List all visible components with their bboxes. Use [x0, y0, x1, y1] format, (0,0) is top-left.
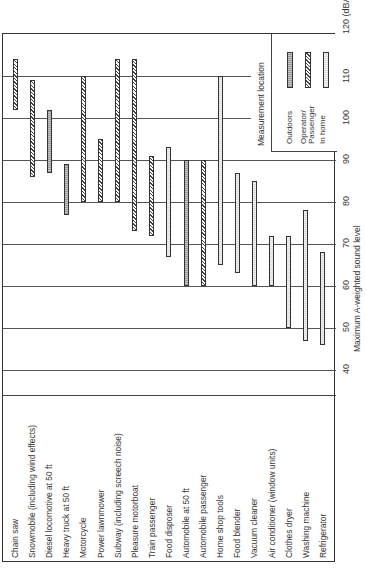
gridline-50 — [3, 328, 336, 329]
axis-unit-label: 120 (dBA) — [341, 0, 351, 34]
legend-label: Passenger — [307, 106, 316, 144]
category-label: Food blender — [232, 509, 242, 558]
bar-food-blender — [235, 173, 240, 274]
bar-automobile-passenger — [201, 160, 206, 286]
category-label: Automobile passenger — [198, 475, 208, 558]
category-label: Food disposer — [164, 505, 174, 558]
tick-label-90: 90 — [341, 154, 351, 164]
bar-air-conditioner-window-units — [269, 236, 274, 286]
bar-heavy-truck-at-50-ft — [64, 164, 69, 214]
category-label: Clothes dryer — [284, 508, 294, 558]
bar-washing-machine — [303, 210, 308, 340]
bar-automobile-at-50-ft — [184, 160, 189, 286]
legend-title: Measurement location — [256, 62, 266, 146]
category-label: Pleasure motorboat — [130, 485, 140, 558]
category-label: Chain saw — [10, 519, 20, 558]
legend-swatch-home — [323, 52, 329, 88]
category-label: Power lawnmower — [96, 490, 106, 558]
tick-label-100: 100 — [341, 109, 351, 124]
tick-label-50: 50 — [341, 322, 351, 332]
category-label: Train passenger — [147, 498, 157, 558]
gridline-110 — [3, 76, 251, 77]
tick-label-70: 70 — [341, 238, 351, 248]
legend-label: Outdoors — [285, 111, 294, 144]
legend-swatch-outdoors — [287, 52, 293, 88]
gridline-40 — [3, 370, 336, 371]
category-label: Refrigerator — [318, 514, 328, 558]
legend-label: In home — [318, 115, 327, 144]
category-label: Diesel locomotive at 50 ft — [44, 464, 54, 558]
bar-refrigerator — [320, 252, 325, 344]
category-label: Vacuum cleaner — [249, 498, 259, 558]
tick-label-40: 40 — [341, 364, 351, 374]
legend-swatch-operator — [305, 52, 311, 88]
category-label: Automobile at 50 ft — [181, 488, 191, 558]
axis-title: Maximum A-weighted sound level — [352, 225, 362, 352]
bar-diesel-locomotive-at-50-ft — [47, 110, 52, 173]
plot-frame: Chain sawSnowmobile (including wind effe… — [2, 33, 335, 562]
bar-motorcycle — [81, 76, 86, 202]
category-label: Motorcycle — [78, 518, 88, 559]
category-label: Home shop tools — [215, 495, 225, 558]
category-label: Heavy truck at 50 ft — [61, 486, 71, 558]
bar-pleasure-motorboat — [132, 59, 137, 231]
bar-power-lawnmower — [98, 139, 103, 202]
tick-label-80: 80 — [341, 196, 351, 206]
bar-train-passenger — [149, 156, 154, 236]
bar-vacuum-cleaner — [252, 181, 257, 286]
gridline-100 — [3, 118, 251, 119]
legend: Measurement location OutdoorsOperator/Pa… — [271, 34, 337, 152]
category-label: Washing machine — [301, 492, 311, 558]
bar-chain-saw — [13, 59, 18, 109]
label-divider — [3, 395, 336, 396]
tick-label-60: 60 — [341, 280, 351, 290]
bar-subway-including-screech-noise — [115, 59, 120, 202]
category-label: Air conditioner (window units) — [267, 449, 277, 558]
category-label: Subway (including screech noise) — [113, 433, 123, 558]
tick-label-110: 110 — [341, 68, 351, 82]
category-label: Snowmobile (including wind effects) — [27, 425, 37, 558]
bar-snowmobile-including-wind-effects — [30, 80, 35, 177]
bar-food-disposer — [166, 147, 171, 256]
bar-home-shop-tools — [218, 76, 223, 265]
bar-clothes-dryer — [286, 236, 291, 328]
